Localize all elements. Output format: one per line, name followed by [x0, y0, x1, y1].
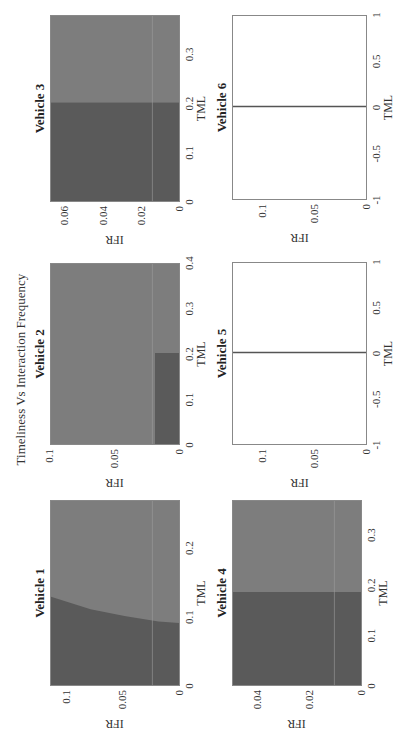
y-axis-label: IFR: [282, 716, 312, 731]
panel-title: Vehicle 1: [32, 500, 48, 686]
x-tick-label: 0.1: [183, 141, 195, 165]
panel-title: Vehicle 2: [32, 263, 48, 445]
plot-area: [50, 15, 180, 202]
x-tick-label: 1: [370, 3, 382, 27]
dark-region: [51, 103, 180, 201]
y-tick-label: 0.06: [58, 206, 70, 236]
plot-area: [232, 15, 367, 200]
y-tick-label: 0: [360, 449, 372, 479]
x-tick-label: 1: [370, 250, 382, 274]
y-tick-label: 0.1: [43, 449, 55, 479]
y-tick-label: 0: [355, 690, 367, 720]
plot-svg: [51, 500, 180, 685]
panel-title: Vehicle 6: [214, 15, 230, 200]
plot-svg: [51, 263, 180, 444]
x-tick-label: 0.5: [370, 296, 382, 320]
dark-region: [233, 592, 362, 685]
figure-title: Timeliness Vs Interaction Frequency: [13, 0, 29, 739]
plot-area: [232, 500, 362, 686]
x-tick-label: 0.4: [183, 251, 195, 275]
plot-area: [50, 500, 180, 686]
panel-title: Vehicle 3: [32, 15, 48, 202]
plot-area: [232, 262, 367, 445]
y-tick-label: 0.1: [256, 449, 268, 479]
plot-svg: [233, 15, 367, 199]
x-tick-label: 0.2: [183, 536, 195, 560]
y-axis-label: IFR: [284, 230, 314, 245]
y-axis-label: IFR: [100, 716, 130, 731]
x-tick-label: 0.1: [183, 388, 195, 412]
x-axis-label: TML: [376, 578, 391, 608]
y-tick-label: 0.04: [251, 690, 263, 720]
plot-svg: [233, 500, 362, 685]
x-axis-label: TML: [194, 94, 209, 124]
rotated-figure: Timeliness Vs Interaction Frequency Vehi…: [0, 0, 410, 739]
plot-svg: [233, 262, 367, 444]
y-tick-label: 0.1: [60, 690, 72, 720]
dark-region: [155, 353, 180, 444]
x-axis-label: TML: [381, 93, 396, 123]
plot-area: [50, 263, 180, 445]
x-tick-label: 0.1: [183, 605, 195, 629]
x-axis-label: TML: [194, 339, 209, 369]
x-tick-label: 0.3: [183, 297, 195, 321]
x-tick-label: -0.5: [370, 142, 382, 166]
x-tick-label: 0.3: [365, 523, 377, 547]
x-tick-label: 0.3: [183, 42, 195, 66]
x-axis-label: TML: [381, 339, 396, 369]
plot-svg: [51, 15, 180, 201]
y-tick-label: 0.1: [256, 204, 268, 234]
y-axis-label: IFR: [100, 475, 130, 490]
y-axis-label: IFR: [284, 475, 314, 490]
y-tick-label: 0.02: [135, 206, 147, 236]
x-tick-label: 0.1: [365, 624, 377, 648]
y-tick-label: 0: [173, 206, 185, 236]
panel-title: Vehicle 4: [214, 500, 230, 686]
x-axis-label: TML: [194, 578, 209, 608]
y-axis-label: IFR: [100, 232, 130, 247]
x-tick-label: -0.5: [370, 387, 382, 411]
y-tick-label: 0: [173, 449, 185, 479]
panel-title: Vehicle 5: [214, 262, 230, 445]
x-tick-label: 0.5: [370, 49, 382, 73]
y-tick-label: 0: [360, 204, 372, 234]
y-tick-label: 0: [173, 690, 185, 720]
